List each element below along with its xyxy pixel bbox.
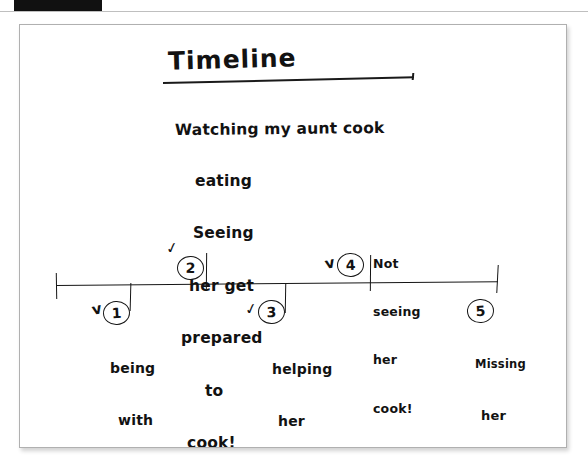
marker-3-line: her bbox=[278, 414, 343, 428]
top-description-line: her get bbox=[189, 279, 384, 295]
marker-checkmark-1: v bbox=[91, 301, 104, 318]
top-description-line: Seeing bbox=[193, 226, 384, 242]
page-title: Timeline bbox=[168, 45, 297, 74]
marker-5-line: Missing bbox=[475, 359, 553, 371]
marker-3-annotation: helping her cook - teaching with me! bbox=[272, 329, 343, 448]
marker-4-line: cook! bbox=[373, 403, 421, 416]
marker-5-annotation: Missing her not eating her food! bbox=[475, 326, 553, 448]
marker-1-annotation: being with her in the kitchen! bbox=[108, 328, 181, 448]
timeline-marker-1[interactable]: 1 bbox=[102, 300, 130, 325]
scanned-page: Timeline Watching my aunt cook eating Se… bbox=[19, 24, 567, 448]
top-divider-rule bbox=[0, 11, 588, 12]
marker-4-annotation: Not seeing her cook! bbox=[373, 225, 421, 448]
marker-4-line: seeing bbox=[373, 306, 421, 319]
timeline-axis-right-cap bbox=[496, 265, 498, 293]
marker-1-line: being bbox=[110, 361, 181, 375]
title-underline-end-tick bbox=[412, 73, 415, 80]
marker-4-line: Not bbox=[373, 258, 421, 271]
top-description-line: eating bbox=[195, 174, 384, 190]
marker-4-line: her bbox=[373, 354, 421, 367]
marker-1-line: with bbox=[118, 413, 181, 427]
top-description-line: Watching my aunt cook bbox=[175, 121, 385, 139]
marker-5-line: her bbox=[481, 409, 553, 422]
timeline-tick bbox=[130, 283, 132, 311]
timeline-marker-5[interactable]: 5 bbox=[466, 298, 495, 324]
title-underline bbox=[163, 76, 414, 84]
marker-3-line: helping bbox=[272, 362, 343, 376]
timeline-axis-left-cap bbox=[56, 273, 57, 299]
